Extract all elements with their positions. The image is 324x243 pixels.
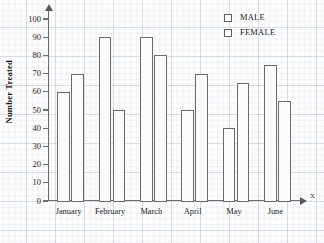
- bar-march-male: [140, 37, 153, 202]
- female-swatch-icon: [224, 29, 232, 37]
- legend: MALE FEMALE: [224, 10, 316, 40]
- bar-april-male: [181, 110, 194, 202]
- bar-may-male: [223, 128, 236, 202]
- y-tick-label: 0: [1, 197, 41, 206]
- x-axis-arrow-icon: [300, 197, 307, 205]
- y-tick-label: 50: [1, 106, 41, 115]
- x-tick-label-january: January: [48, 207, 89, 216]
- legend-label-female: FEMALE: [240, 28, 275, 37]
- bars-layer: [48, 19, 296, 201]
- male-swatch-icon: [224, 14, 232, 22]
- bar-january-male: [57, 92, 70, 202]
- bar-june-male: [264, 65, 277, 203]
- bar-february-female: [113, 110, 126, 202]
- y-tick-label: 80: [1, 51, 41, 60]
- x-tick-label-april: April: [172, 207, 213, 216]
- y-axis-arrow-icon: [45, 4, 53, 11]
- bar-chart: Number Treated Y X 100908070605040302010…: [0, 0, 324, 243]
- y-tick-label: 10: [1, 178, 41, 187]
- x-tick-label-may: May: [213, 207, 254, 216]
- y-tick-label: 90: [1, 33, 41, 42]
- bar-june-female: [278, 101, 291, 202]
- y-tick-label: 70: [1, 69, 41, 78]
- legend-label-male: MALE: [240, 13, 265, 22]
- plot-area: Y X 1009080706050403020100 JanuaryFebrua…: [48, 19, 296, 201]
- y-tick-label: 30: [1, 142, 41, 151]
- y-tick-label: 40: [1, 124, 41, 133]
- legend-item-female: FEMALE: [224, 25, 316, 40]
- y-tick-label: 100: [1, 15, 41, 24]
- legend-item-male: MALE: [224, 10, 316, 25]
- x-tick-label-february: February: [89, 207, 130, 216]
- y-tick-label: 60: [1, 87, 41, 96]
- bar-march-female: [154, 55, 167, 202]
- y-tick-label: 20: [1, 160, 41, 169]
- bar-april-female: [195, 74, 208, 202]
- bar-january-female: [71, 74, 84, 202]
- x-tick-label-june: June: [255, 207, 296, 216]
- x-tick-label-march: March: [131, 207, 172, 216]
- bar-may-female: [237, 83, 250, 202]
- y-axis-tick-labels: 1009080706050403020100: [1, 19, 41, 201]
- x-axis-letter: X: [310, 192, 315, 200]
- bar-february-male: [99, 37, 112, 202]
